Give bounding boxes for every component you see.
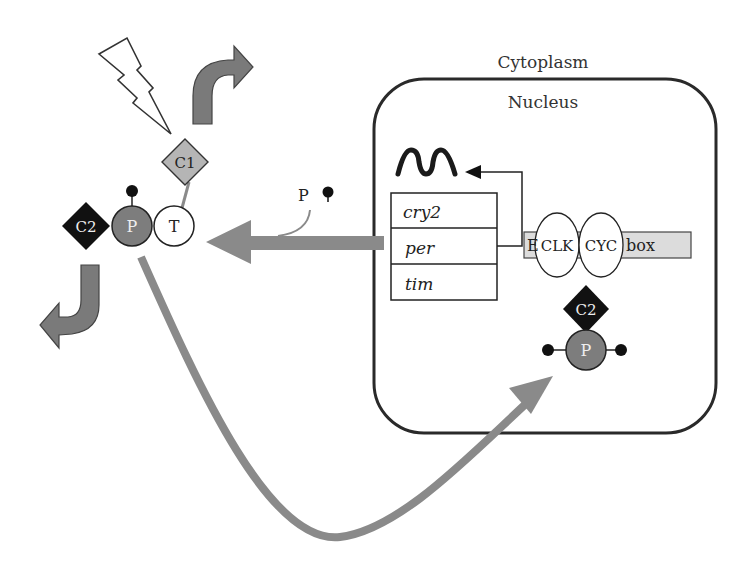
phosphate-label: P (298, 186, 309, 205)
ebox-box-label: box (626, 236, 655, 255)
phosphate-dot (542, 344, 554, 356)
ebox-promoter: E CLK CYC box (524, 213, 691, 277)
c2-label: C2 (75, 218, 96, 236)
nucleus-label: Nucleus (508, 92, 579, 112)
gene-cry2: cry2 (403, 202, 441, 222)
light-stimulus-icon (99, 38, 171, 134)
nuclear-c2-p-complex: C2 P (542, 285, 627, 370)
curved-arrow-down-left-icon (40, 265, 99, 348)
c1-label: C1 (174, 154, 195, 172)
gene-tim: tim (405, 274, 433, 294)
gene-list: cry2 per tim (391, 193, 497, 300)
gene-per: per (405, 238, 435, 258)
phosphate-dot (615, 344, 627, 356)
cytoplasmic-complex: C1 C2 P T (62, 139, 208, 250)
cyc-label: CYC (585, 237, 618, 255)
t-label: T (169, 217, 180, 236)
curved-arrow-up-right-icon (193, 46, 253, 124)
p-label: P (127, 217, 138, 236)
c2-label: C2 (575, 301, 596, 319)
mrna-wave-icon (398, 150, 455, 174)
cytoplasm-label: Cytoplasm (498, 52, 589, 72)
p-label: P (581, 341, 592, 360)
diagram-canvas: Cytoplasm Nucleus cry2 per tim E CLK CYC… (0, 0, 753, 564)
phosphate-dot (126, 185, 138, 197)
clk-label: CLK (541, 237, 574, 255)
ebox-e-label: E (527, 236, 539, 255)
export-arrow (206, 220, 384, 264)
phosphorylation-marker: P (278, 186, 334, 236)
